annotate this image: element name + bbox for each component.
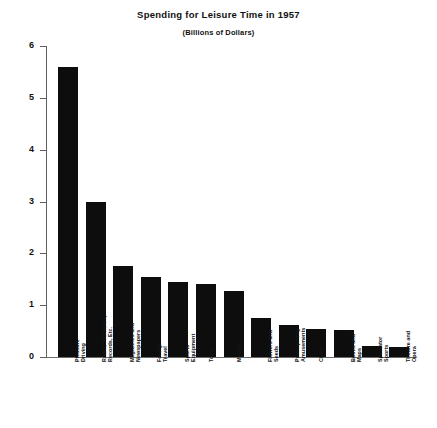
- x-axis-label: SportsEquipment: [184, 300, 196, 362]
- x-axis-label-line: Toys: [208, 300, 214, 362]
- x-axis-label: ParticipatingAmusements: [294, 300, 306, 362]
- x-axis-label: ForeignTravel: [156, 300, 168, 362]
- x-axis-label: Toys: [208, 300, 214, 362]
- y-tick-mark: [40, 253, 47, 254]
- y-tick-label: 3: [12, 197, 34, 206]
- y-tick-label: 0: [12, 352, 34, 361]
- y-tick-mark: [40, 98, 47, 99]
- x-axis-label-line: Sports: [383, 300, 389, 362]
- x-axis-label-line: Pleasure: [74, 300, 80, 362]
- x-axis-label-line: Seeds: [273, 300, 279, 362]
- x-axis-label: Movies: [236, 300, 242, 362]
- y-tick-label: 4: [12, 145, 34, 154]
- x-axis-label-line: Movies: [236, 300, 242, 362]
- y-tick-mark: [40, 305, 47, 306]
- x-axis-label-line: Newspapers: [135, 300, 141, 362]
- plot-area: 0123456 PleasureDrivingRadio, Television…: [0, 0, 437, 428]
- y-tick-5: 5: [0, 98, 47, 99]
- y-tick-4: 4: [0, 150, 47, 151]
- x-axis-label-line: Theatre and: [405, 300, 411, 362]
- x-axis-label-line: Clubs: [318, 300, 324, 362]
- x-axis-label-line: Driving: [80, 300, 86, 362]
- y-tick-0: 0: [0, 357, 47, 358]
- x-axis-label-line: Books and: [350, 300, 356, 362]
- y-tick-label: 1: [12, 300, 34, 309]
- y-tick-3: 3: [0, 202, 47, 203]
- y-tick-mark: [40, 150, 47, 151]
- x-axis-label: Theatre andOpera: [405, 300, 417, 362]
- x-axis-label: PleasureDriving: [74, 300, 86, 362]
- y-tick-label: 5: [12, 93, 34, 102]
- x-axis-label-line: Equipment: [190, 300, 196, 362]
- x-axis-label-line: Records, Etc.: [107, 300, 113, 362]
- x-axis-label: Magazines andNewspapers: [129, 300, 141, 362]
- y-tick-mark: [40, 46, 47, 47]
- x-axis-label-line: Amusements: [301, 300, 307, 362]
- y-tick-mark: [40, 202, 47, 203]
- x-axis-label-line: Maps: [356, 300, 362, 362]
- y-tick-mark: [40, 357, 47, 358]
- y-tick-6: 6: [0, 46, 47, 47]
- y-tick-1: 1: [0, 305, 47, 306]
- x-axis-label-line: Flowers and: [267, 300, 273, 362]
- x-axis-label: Radio, Television,Records, Etc.: [101, 300, 113, 362]
- x-axis-label-line: Travel: [163, 300, 169, 362]
- x-axis-label: Clubs: [318, 300, 324, 362]
- x-axis-label: Flowers andSeeds: [267, 300, 279, 362]
- y-tick-label: 6: [12, 41, 34, 50]
- y-tick-2: 2: [0, 253, 47, 254]
- chart-figure: Spending for Leisure Time in 1957 (Billi…: [0, 0, 437, 428]
- x-axis-label-line: Opera: [411, 300, 417, 362]
- x-axis-label-line: Magazines and: [129, 300, 135, 362]
- x-axis-label: SpectatorSports: [377, 300, 389, 362]
- y-tick-label: 2: [12, 248, 34, 257]
- x-axis-label: Books andMaps: [350, 300, 362, 362]
- x-axis-label-line: Sports: [184, 300, 190, 362]
